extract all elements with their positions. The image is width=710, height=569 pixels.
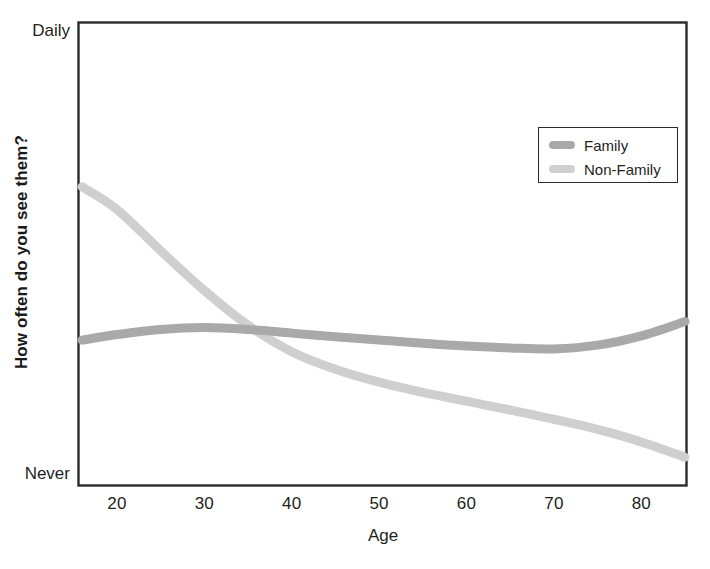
- legend-item-non-family: Non-Family: [549, 158, 677, 180]
- x-tick-label-20: 20: [107, 494, 126, 514]
- x-axis-title: Age: [368, 526, 398, 546]
- legend-swatch-family: [549, 141, 575, 149]
- chart-plot-area: [0, 0, 710, 569]
- y-axis-top-tick-label: Daily: [32, 21, 70, 41]
- x-tick-label-50: 50: [369, 494, 388, 514]
- legend-label-family: Family: [584, 138, 628, 153]
- x-tick-label-40: 40: [282, 494, 301, 514]
- x-tick-label-70: 70: [544, 494, 563, 514]
- chart-legend: Family Non-Family: [538, 127, 678, 183]
- chart-figure: Daily Never How often do you see them? A…: [0, 0, 710, 569]
- x-tick-label-30: 30: [195, 494, 214, 514]
- x-tick-label-60: 60: [457, 494, 476, 514]
- y-axis-title: How often do you see them?: [12, 135, 32, 369]
- legend-item-family: Family: [549, 134, 677, 156]
- x-tick-label-80: 80: [632, 494, 651, 514]
- legend-label-non-family: Non-Family: [584, 162, 661, 177]
- y-axis-bottom-tick-label: Never: [25, 464, 70, 484]
- legend-swatch-non-family: [549, 165, 575, 173]
